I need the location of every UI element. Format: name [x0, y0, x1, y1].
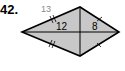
kite-figure: 13 12 8: [0, 0, 125, 71]
label-8: 8: [92, 21, 98, 32]
label-12: 12: [56, 21, 68, 32]
label-13: 13: [41, 4, 51, 14]
